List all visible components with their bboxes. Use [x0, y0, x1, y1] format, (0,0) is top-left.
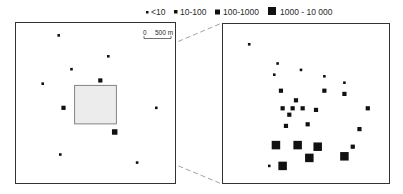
zoom-area-highlight [75, 85, 117, 124]
overview-settlement-marker-medium [61, 106, 65, 110]
overview-map: 0 500 m [16, 23, 176, 184]
detail-settlement-marker-medium [294, 98, 298, 102]
detail-settlement-marker-xlarge [340, 152, 349, 161]
legend-label-small: <10 [151, 7, 166, 17]
overview-settlement-marker-small [41, 82, 44, 85]
detail-settlement-marker-small [268, 165, 271, 168]
detail-settlement-marker-medium [301, 106, 305, 110]
legend-marker-large [215, 10, 220, 15]
detail-settlement-marker-medium [366, 106, 370, 110]
overview-settlement-marker-small [136, 161, 139, 164]
detail-settlement-marker-medium [287, 113, 291, 117]
detail-settlement-marker-medium [291, 106, 295, 110]
detail-settlement-marker-medium [357, 127, 361, 131]
detail-settlement-marker-small [323, 75, 326, 78]
legend-label-medium: 10-100 [180, 7, 207, 17]
overview-settlement-marker-small [59, 153, 62, 156]
overview-settlement-marker-small [57, 34, 60, 37]
legend-marker-medium [174, 10, 178, 14]
legend-marker-xlarge [268, 7, 276, 15]
detail-settlement-marker-xlarge [313, 142, 322, 151]
detail-settlement-marker-medium [284, 124, 288, 128]
legend-label-large: 100-1000 [223, 7, 259, 17]
detail-settlement-marker-small [276, 62, 279, 65]
detail-settlement-marker-small [300, 69, 303, 72]
detail-settlement-marker-small [343, 81, 346, 84]
detail-settlement-marker-medium [342, 92, 346, 96]
detail-settlement-marker-medium [279, 89, 283, 93]
legend: <10 10-100 100-1000 1000 - 10 000 [146, 7, 333, 17]
scale-bar-end-label: 500 m [155, 29, 173, 36]
overview-settlement-marker-small [70, 68, 73, 71]
legend-label-xlarge: 1000 - 10 000 [280, 7, 333, 17]
detail-settlement-marker-medium [351, 145, 355, 149]
detail-settlement-marker-medium [281, 106, 285, 110]
detail-settlement-marker-small [248, 43, 251, 46]
detail-settlement-marker-medium [314, 108, 318, 112]
overview-settlement-marker-small [107, 55, 110, 58]
legend-marker-small [146, 11, 149, 14]
detail-settlement-marker-xlarge [305, 154, 314, 163]
overview-settlement-marker-large [112, 129, 118, 135]
detail-settlement-marker-xlarge [278, 162, 287, 171]
detail-settlement-marker-xlarge [272, 141, 281, 150]
detail-settlement-marker-small [273, 73, 276, 76]
settlement-distribution-figure: <10 10-100 100-1000 1000 - 10 000 0 500 … [0, 0, 403, 194]
detail-settlement-marker-xlarge [293, 141, 302, 150]
detail-settlement-marker-medium [322, 89, 326, 93]
overview-settlement-marker-small [155, 107, 158, 110]
overview-settlement-marker-medium [98, 78, 102, 82]
detail-settlement-marker-medium [306, 122, 310, 126]
scale-bar-start-label: 0 [143, 29, 147, 36]
detail-map [223, 24, 390, 184]
